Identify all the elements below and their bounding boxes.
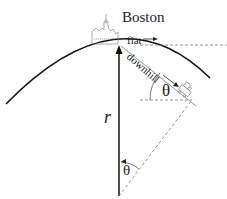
train-icon — [177, 81, 195, 99]
center-to-train-dashed-line — [119, 100, 192, 196]
flat-label: flat — [127, 35, 142, 46]
earth-surface-arc — [6, 39, 210, 104]
city-label: Boston — [122, 10, 165, 25]
angle-at-train-label: θ — [162, 82, 170, 99]
flat-arrowhead-icon — [153, 37, 158, 41]
angle-at-center-label: θ — [123, 163, 130, 178]
downhill-arrowhead-icon — [173, 82, 179, 87]
earth-curvature-diagram — [0, 0, 227, 199]
radius-label: r — [104, 108, 111, 126]
